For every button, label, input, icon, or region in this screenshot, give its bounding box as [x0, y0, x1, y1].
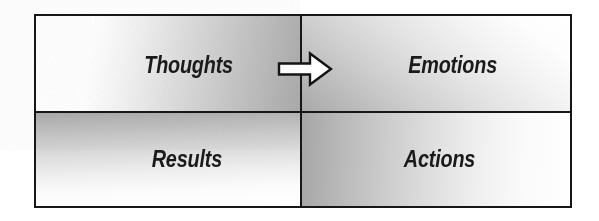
quadrant-results: Results — [36, 112, 302, 206]
quadrant-emotions: Emotions — [302, 16, 570, 112]
quadrant-diagram-frame: Thoughts Emotions Results Actions — [34, 14, 572, 208]
quadrant-actions: Actions — [302, 112, 570, 206]
quadrant-label-emotions: Emotions — [409, 54, 498, 77]
quadrant-label-results: Results — [152, 148, 222, 171]
right-block-arrow-icon — [277, 50, 333, 88]
quadrant-thoughts: Thoughts — [36, 16, 302, 112]
quadrant-label-thoughts: Thoughts — [145, 54, 234, 77]
quadrant-label-actions: Actions — [403, 148, 474, 171]
quadrant-divider-horizontal — [36, 111, 570, 113]
